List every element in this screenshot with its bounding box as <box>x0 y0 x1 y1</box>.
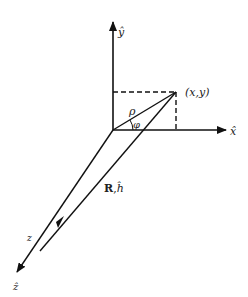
point-label: (x,y) <box>185 86 210 99</box>
coordinate-diagram: ŷ x̂ ẑ (x,y) ρ φ R,ĥ z <box>0 0 248 297</box>
phi-label: φ <box>133 119 140 130</box>
vector-R-arrowhead <box>56 216 64 228</box>
y-axis-label: ŷ <box>117 26 125 39</box>
rho-label: ρ <box>128 105 136 118</box>
vector-R-line <box>40 92 176 251</box>
rho-line <box>113 92 176 130</box>
z-point-label: z <box>26 233 32 243</box>
z-axis <box>17 130 113 272</box>
z-axis-label: ẑ <box>12 281 19 292</box>
vector-R-label: R,ĥ <box>104 181 124 195</box>
x-axis-label: x̂ <box>230 125 237 138</box>
